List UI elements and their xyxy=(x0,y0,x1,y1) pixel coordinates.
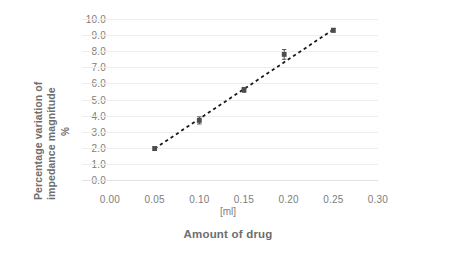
y-axis-tick-label: 3.0 xyxy=(72,126,106,137)
data-point-marker xyxy=(242,87,247,92)
y-axis-title: Percentage variation of impedance magnit… xyxy=(16,14,72,204)
y-axis-tick-label: 9.0 xyxy=(72,30,106,41)
y-axis-tick-labels: 0.01.02.03.04.05.06.07.08.09.010.0 xyxy=(72,0,106,259)
y-axis-tick-label: 0.0 xyxy=(72,175,106,186)
x-axis-line xyxy=(82,180,378,181)
y-axis-tick-label: 5.0 xyxy=(72,94,106,105)
y-axis-tick-label: 1.0 xyxy=(72,158,106,169)
y-axis-tick-label: 4.0 xyxy=(72,110,106,121)
x-axis-unit-label: [ml] xyxy=(0,206,456,217)
x-axis-tick-label: 0.30 xyxy=(352,194,404,205)
data-point-marker xyxy=(331,28,336,33)
y-axis-tick-label: 6.0 xyxy=(72,78,106,89)
y-axis-unit-label: % xyxy=(60,127,71,136)
chart-container: Percentage variation of impedance magnit… xyxy=(0,0,456,259)
y-axis-tick-label: 10.0 xyxy=(72,14,106,25)
x-axis-title: Amount of drug xyxy=(0,228,456,240)
data-point-marker xyxy=(282,52,287,57)
y-axis-tick-label: 7.0 xyxy=(72,62,106,73)
data-point-marker xyxy=(152,146,157,151)
y-axis-title-line-1: Percentage variation of xyxy=(32,82,44,200)
data-point-marker xyxy=(197,118,202,123)
y-axis-title-line-2: impedance magnitude xyxy=(45,87,57,200)
y-axis-tick-label: 2.0 xyxy=(72,142,106,153)
plot-area xyxy=(110,19,378,180)
y-axis-tick-label: 8.0 xyxy=(72,46,106,57)
data-series xyxy=(110,19,378,180)
